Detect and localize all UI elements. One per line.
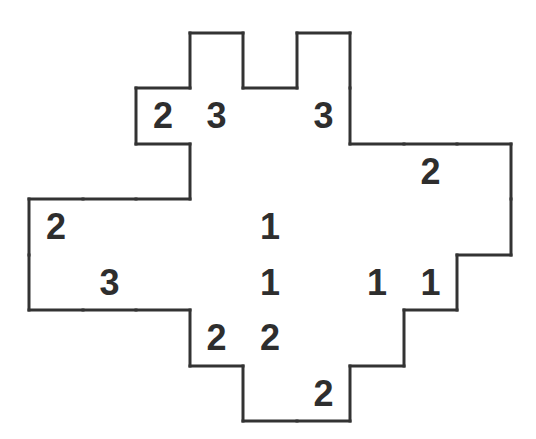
grid-cell-r1-c3[interactable]: 3	[190, 88, 244, 145]
grid-cell-r3-c8[interactable]	[457, 199, 512, 256]
grid-cell-r1-c5[interactable]: 3	[297, 88, 351, 145]
grid-cell-r4-c2[interactable]	[136, 255, 191, 311]
grid-cell-r0-c5[interactable]	[297, 33, 351, 89]
grid-cell-r1-c2[interactable]: 2	[136, 88, 191, 145]
grid-cell-r4-c7[interactable]: 1	[404, 255, 458, 311]
grid-cell-r2-c6[interactable]	[350, 144, 405, 200]
grid-cell-r4-c5[interactable]	[297, 255, 351, 311]
grid-cell-r3-c1[interactable]	[83, 199, 137, 256]
grid-cell-r3-c3[interactable]	[190, 199, 244, 256]
grid-cell-r3-c0[interactable]: 2	[29, 199, 84, 256]
grid-cell-r4-c4[interactable]: 1	[243, 255, 298, 311]
grid-cell-r2-c4[interactable]	[243, 144, 298, 200]
grid-cell-r3-c7[interactable]	[404, 199, 458, 256]
grid-cell-r2-c7[interactable]: 2	[404, 144, 458, 200]
grid-cell-r1-c4[interactable]	[243, 88, 298, 145]
grid-cell-r5-c3[interactable]: 2	[190, 310, 244, 367]
grid-cell-r4-c6[interactable]: 1	[350, 255, 405, 311]
grid-cell-r0-c3[interactable]	[190, 33, 244, 89]
grid-cell-r5-c5[interactable]	[297, 310, 351, 367]
grid-cell-r2-c3[interactable]	[190, 144, 244, 200]
grid-cell-r3-c6[interactable]	[350, 199, 405, 256]
grid-cell-r4-c3[interactable]	[190, 255, 244, 311]
grid-cell-r5-c6[interactable]	[350, 310, 405, 367]
grid-cell-r3-c2[interactable]	[136, 199, 191, 256]
grid-cell-r6-c4[interactable]	[243, 366, 298, 422]
grid-cell-r3-c4[interactable]: 1	[243, 199, 298, 256]
puzzle-board: 2332213111222	[0, 0, 536, 439]
grid-cell-r6-c5[interactable]: 2	[297, 366, 351, 422]
grid-cell-r5-c4[interactable]: 2	[243, 310, 298, 367]
grid-cell-r3-c5[interactable]	[297, 199, 351, 256]
grid-cell-r4-c1[interactable]: 3	[83, 255, 137, 311]
grid-cell-r4-c0[interactable]	[29, 255, 84, 311]
grid-cell-r2-c8[interactable]	[457, 144, 512, 200]
grid-cell-r2-c5[interactable]	[297, 144, 351, 200]
